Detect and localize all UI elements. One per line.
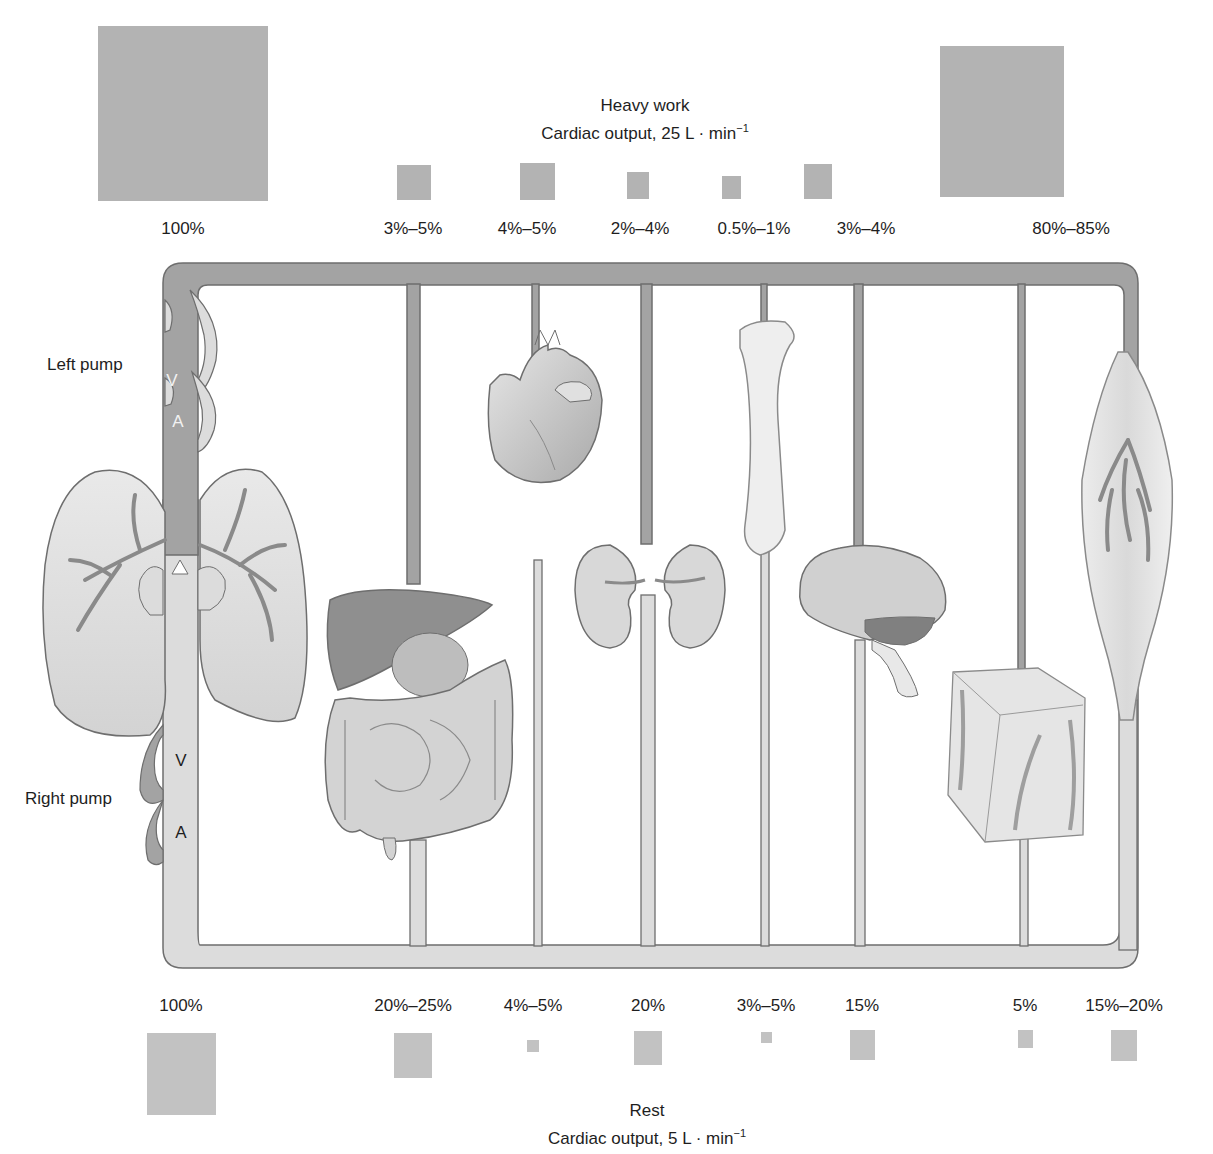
right-atrium-label: A [175,823,187,842]
rest-cardiac-output: Cardiac output, 5 L · min−1 [548,1122,746,1150]
heavy-work-square [722,176,741,199]
rest-percentage: 100% [159,996,202,1016]
rest-percentage: 3%–5% [737,996,796,1016]
rest-percentage: 4%–5% [504,996,563,1016]
heavy-work-percentage: 3%–5% [384,219,443,239]
rest-percentage: 15% [845,996,879,1016]
heavy-work-square [804,164,832,199]
rest-percentage: 20% [631,996,665,1016]
heavy-work-percentage: 3%–4% [837,219,896,239]
left-pump-label: Left pump [47,355,123,375]
heavy-work-percentage: 80%–85% [1032,219,1110,239]
rest-percentage: 20%–25% [374,996,452,1016]
heavy-work-label: Heavy work [541,95,749,117]
rest-square [147,1033,216,1115]
heavy-work-cardiac-output: Cardiac output, 25 L · min−1 [541,117,749,145]
rest-square [527,1040,539,1052]
heavy-work-square [397,165,431,200]
rest-square [634,1031,662,1065]
rest-percentage: 5% [1013,996,1038,1016]
liver-intestines-illustration [325,590,512,860]
heavy-work-square [98,26,268,201]
heavy-work-square [627,172,649,199]
rest-title: Rest Cardiac output, 5 L · min−1 [548,1100,746,1150]
heavy-work-square [520,163,555,200]
rest-square [850,1030,875,1060]
rest-square [394,1033,432,1078]
rest-square [1018,1030,1033,1048]
heavy-work-percentage: 4%–5% [498,219,557,239]
skeletal-muscle-illustration [1082,352,1172,720]
rest-square [1111,1030,1137,1061]
bone-illustration [740,321,794,555]
left-ventricle-label: V [166,371,178,390]
right-ventricle-label: V [175,751,187,770]
rest-square [761,1032,772,1043]
heavy-work-square [940,46,1064,197]
heart-illustration [488,330,602,483]
right-pump-label: Right pump [25,789,112,809]
brain-illustration [800,546,946,697]
heavy-work-percentage: 0.5%–1% [718,219,791,239]
heavy-work-title: Heavy work Cardiac output, 25 L · min−1 [541,95,749,145]
skin-illustration [948,668,1085,842]
heavy-work-percentage: 100% [161,219,204,239]
heavy-work-percentage: 2%–4% [611,219,670,239]
rest-label: Rest [548,1100,746,1122]
left-atrium-label: A [172,412,184,431]
right-pump-valves [140,725,163,865]
rest-percentage: 15%–20% [1085,996,1163,1016]
